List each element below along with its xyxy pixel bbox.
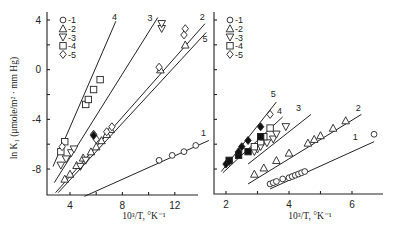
x-tick-label: 2 [223, 199, 229, 210]
circle-marker [169, 152, 175, 158]
y-axis-title: ln K₁ (μmole/m² · mm Hg) [9, 57, 20, 159]
series-label: 2 [356, 103, 361, 113]
series-label: 5 [202, 34, 207, 44]
square-marker [245, 148, 251, 154]
x-tick-label: 8 [120, 200, 126, 211]
triangle-up-marker [59, 25, 67, 32]
series-label: 5 [271, 89, 276, 99]
x-axis-title: 10³/T, °K⁻¹ [122, 211, 165, 221]
triangle-up-marker [260, 164, 268, 171]
series-label: 3 [147, 13, 152, 23]
circle-marker [181, 149, 187, 155]
square-marker [251, 143, 257, 149]
triangle-up-marker [317, 132, 325, 139]
x-tick-label: 4 [286, 199, 292, 210]
fit-line [270, 142, 374, 189]
circle-marker [280, 176, 286, 182]
y-tick-label: 4 [35, 15, 41, 26]
fit-line [84, 140, 208, 196]
legend: -1-2-3-4-5 [59, 15, 76, 59]
series-label: 1 [201, 128, 206, 138]
series-label: 2 [200, 12, 205, 22]
square-marker [97, 76, 103, 82]
x-tick-label: 6 [349, 199, 355, 210]
left-panel: 40-4-8481210³/T, °K⁻¹12345-1-2-3-4-5 [32, 12, 209, 221]
y-tick-label: 0 [35, 64, 41, 75]
series-1: 1 [267, 131, 377, 189]
x-tick-label: 12 [169, 200, 181, 211]
series-label: 3 [296, 103, 301, 113]
square-marker [227, 43, 233, 49]
circle-marker [302, 169, 308, 175]
diamond-marker [267, 110, 273, 118]
diamond-marker [227, 50, 233, 58]
triangle-up-marker [226, 25, 234, 32]
square-marker [267, 125, 273, 131]
fit-line [58, 32, 206, 192]
x-tick-label: 4 [67, 200, 73, 211]
y-tick-label: -4 [32, 114, 41, 125]
circle-marker [156, 157, 162, 163]
series-label: 1 [353, 132, 358, 142]
triangle-up-marker [342, 117, 350, 124]
legend-entry: -5 [235, 50, 243, 60]
series-label: 4 [112, 12, 117, 22]
circle-marker [371, 131, 377, 137]
circle-marker [274, 179, 280, 185]
square-marker [90, 86, 96, 92]
y-tick-label: -8 [32, 164, 41, 175]
triangle-up-marker [329, 124, 337, 131]
circle-marker [60, 17, 66, 23]
triangle-up-marker [181, 41, 189, 48]
figure-canvas: 40-4-8481210³/T, °K⁻¹12345-1-2-3-4-52461… [0, 0, 395, 231]
triangle-down-marker [226, 34, 234, 41]
legend-entry: -5 [68, 50, 76, 60]
right-panel: 24610³/T, °K⁻¹12345-1-2-3-4-5 [214, 12, 383, 221]
x-axis-title: 10³/T, °K⁻¹ [288, 211, 331, 221]
square-marker [85, 96, 91, 102]
triangle-down-marker [59, 34, 67, 41]
square-marker [60, 43, 66, 49]
circle-marker [227, 17, 233, 23]
circle-marker [193, 143, 199, 149]
triangle-down-marker [282, 124, 290, 131]
series-label: 4 [277, 106, 282, 116]
triangle-up-marker [251, 170, 259, 177]
legend: -1-2-3-4-5 [226, 15, 243, 59]
diamond-marker [245, 136, 251, 144]
triangle-up-marker [273, 157, 281, 164]
triangle-up-marker [285, 149, 293, 156]
square-marker [257, 134, 263, 140]
diamond-marker [60, 50, 66, 58]
